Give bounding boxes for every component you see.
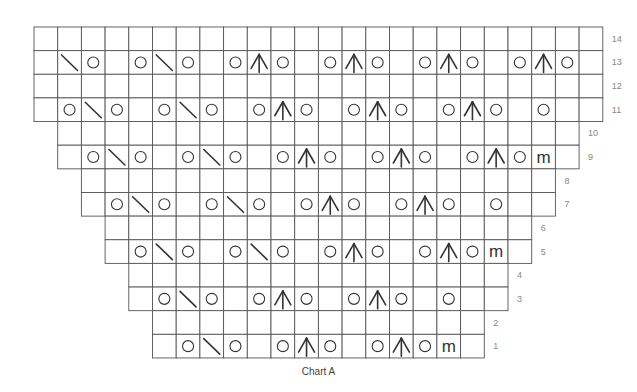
chart-cell [532,27,556,51]
chart-row-13 [34,51,603,75]
chart-cell [105,216,129,240]
chart-cell [342,27,366,51]
chart-cell [461,240,485,264]
chart-cell [224,311,248,335]
chart-cell [247,169,271,193]
chart-cell [153,145,177,169]
chart-cell [129,287,153,311]
chart-cell [413,122,437,146]
chart-cell [247,98,271,122]
chart-caption: Chart A [0,366,637,377]
chart-cell [224,27,248,51]
chart-cell [461,122,485,146]
chart-cell [34,98,58,122]
chart-cell [105,192,129,216]
chart-cell [153,122,177,146]
chart-cell [105,98,129,122]
chart-cell [58,122,82,146]
chart-cell [247,145,271,169]
row-label: 4 [517,270,522,280]
chart-cell [484,51,508,75]
chart-cell [437,287,461,311]
row-label: 1 [493,341,498,351]
chart-cell [200,145,224,169]
chart-cell: m [484,240,508,264]
chart-cell [484,98,508,122]
chart-cell [342,122,366,146]
chart-cell [295,192,319,216]
chart-cell [271,51,295,75]
chart-cell [271,169,295,193]
chart-cell [413,74,437,98]
chart-cell [366,216,390,240]
make-one-icon: m [442,337,456,356]
chart-cell [437,145,461,169]
chart-row-14 [34,27,603,51]
chart-cell [461,98,485,122]
chart-cell [461,51,485,75]
chart-cell [461,27,485,51]
chart-cell [247,51,271,75]
chart-cell [437,311,461,335]
chart-cell [81,192,105,216]
chart-cell [247,263,271,287]
chart-cell [342,311,366,335]
chart-cell [484,169,508,193]
chart-cell [437,27,461,51]
chart-row-4 [129,263,508,287]
chart-cell [58,74,82,98]
chart-cell [153,240,177,264]
chart-cell [390,74,414,98]
chart-cell [200,27,224,51]
chart-cell [508,192,532,216]
chart-cell [532,169,556,193]
chart-cell [390,192,414,216]
chart-cell [318,169,342,193]
chart-cell [318,27,342,51]
chart-row-1: m [153,334,485,358]
row-label: 8 [564,176,569,186]
chart-cell [342,169,366,193]
chart-cell [271,27,295,51]
chart-cell [34,27,58,51]
svg-text:m: m [489,242,503,261]
chart-cell [318,51,342,75]
row-label: 6 [541,223,546,233]
chart-cell [224,145,248,169]
row-label: 7 [564,199,569,209]
chart-cell [81,74,105,98]
chart-cell [318,311,342,335]
chart-cell [532,98,556,122]
chart-cell [295,216,319,240]
chart-cell [295,122,319,146]
chart-cell [295,27,319,51]
chart-cell [413,27,437,51]
chart-cell: m [532,145,556,169]
chart-cell [81,169,105,193]
row-label: 11 [612,105,621,115]
chart-cell [58,98,82,122]
chart-cell [129,192,153,216]
chart-cell [200,334,224,358]
chart-cell [484,27,508,51]
chart-cell [105,27,129,51]
chart-cell [295,334,319,358]
chart-cell [555,145,579,169]
chart-cell [105,122,129,146]
chart-cell [413,192,437,216]
chart-cell [271,74,295,98]
chart-cell [555,27,579,51]
chart-cell [318,192,342,216]
chart-cell [366,27,390,51]
chart-cell [153,27,177,51]
chart-cell [318,287,342,311]
chart-cell [437,122,461,146]
chart-cell [224,122,248,146]
chart-cell [390,51,414,75]
chart-cell [342,145,366,169]
chart-cell [366,263,390,287]
chart-cell [366,145,390,169]
chart-cell [129,145,153,169]
chart-row-6 [105,216,532,240]
chart-cell [437,240,461,264]
